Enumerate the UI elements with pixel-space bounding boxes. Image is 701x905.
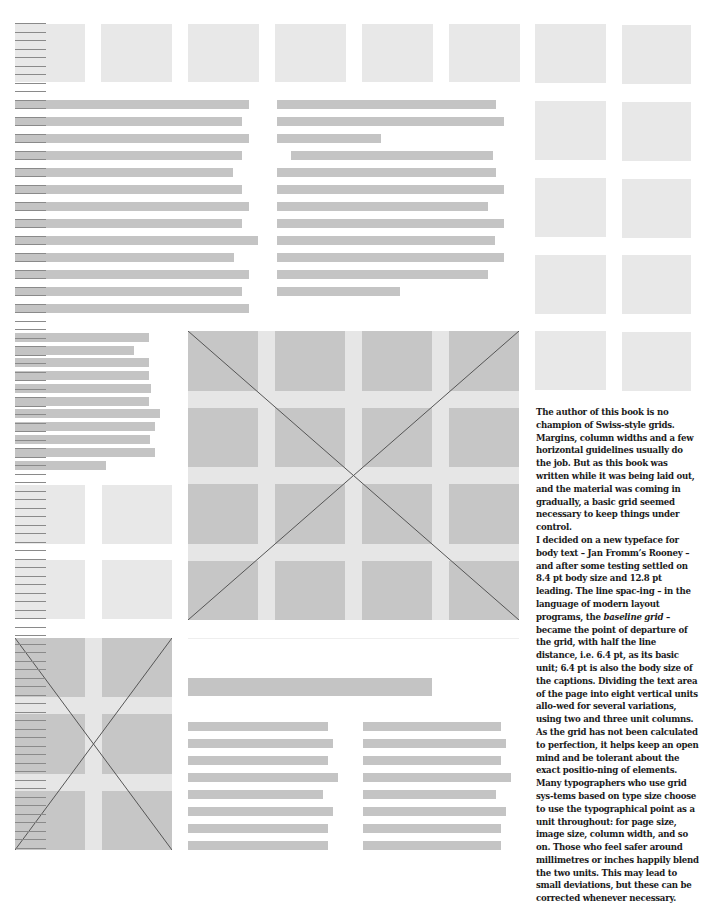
baseline-rule [15, 610, 46, 611]
baseline-rule [15, 202, 46, 203]
text-line-bar [363, 807, 506, 816]
baseline-rule [15, 176, 46, 177]
baseline-rule [15, 159, 46, 160]
placeholder-square [101, 24, 172, 82]
baseline-rule [15, 287, 46, 288]
baseline-rule [15, 695, 46, 696]
text-line-bar [15, 151, 242, 160]
baseline-rule [15, 686, 46, 687]
baseline-rule [15, 814, 46, 815]
baseline-rule [15, 117, 46, 118]
placeholder-square [102, 485, 172, 544]
baseline-rule [15, 431, 46, 432]
baseline-rule [15, 278, 46, 279]
baseline-rule [15, 448, 46, 449]
baseline-rule [15, 746, 46, 747]
text-line-bar [277, 270, 488, 279]
caption-text: Many typographers who use grid sys-tems … [536, 778, 699, 903]
baseline-rule [15, 363, 46, 364]
baseline-rule [15, 312, 46, 313]
baseline-rule [15, 321, 46, 322]
text-line-bar [15, 168, 233, 177]
baseline-rule [15, 831, 46, 832]
text-line-bar [15, 236, 258, 245]
baseline-rule [15, 219, 46, 220]
baseline-rule [15, 754, 46, 755]
placeholder-square [275, 24, 346, 82]
baseline-rule [15, 372, 46, 373]
placeholder-square [622, 179, 691, 238]
baseline-rule [15, 295, 46, 296]
text-line-bar [277, 287, 400, 296]
text-line-bar [15, 117, 242, 126]
text-line-bar [277, 117, 504, 126]
text-line-bar [363, 790, 496, 799]
baseline-rule [15, 74, 46, 75]
baseline-rule [15, 168, 46, 169]
baseline-rule [15, 66, 46, 67]
baseline-rule [15, 822, 46, 823]
baseline-rule [15, 134, 46, 135]
baseline-rule [15, 576, 46, 577]
baseline-rule [15, 644, 46, 645]
text-line-bar [188, 739, 333, 748]
text-line-bar [363, 841, 501, 850]
baseline-rule [15, 304, 46, 305]
text-line-bar [277, 202, 488, 211]
baseline-rule [15, 329, 46, 330]
placeholder-square [535, 255, 606, 314]
large-image-placeholder [188, 331, 519, 620]
baseline-rule [15, 788, 46, 789]
baseline-rule [15, 125, 46, 126]
text-line-bar [277, 100, 496, 109]
baseline-rule [15, 380, 46, 381]
baseline-rule [15, 244, 46, 245]
text-line-bar [277, 236, 495, 245]
baseline-rule [15, 601, 46, 602]
placeholder-square [535, 331, 606, 390]
placeholder-square [449, 24, 520, 82]
text-line-bar [188, 773, 338, 782]
baseline-rule [15, 474, 46, 475]
baseline-rule [15, 763, 46, 764]
text-line-bar [277, 219, 504, 228]
text-line-bar [188, 790, 323, 799]
placeholder-square [188, 24, 259, 82]
baseline-rule [15, 525, 46, 526]
text-line-bar [15, 448, 155, 457]
caption-paragraph: The author of this book is no champion o… [536, 406, 700, 534]
baseline-rule [15, 797, 46, 798]
baseline-rule [15, 236, 46, 237]
baseline-rule [15, 465, 46, 466]
baseline-rule [15, 83, 46, 84]
caption-paragraph: Many typographers who use grid sys-tems … [536, 777, 700, 905]
text-line-bar [15, 346, 134, 355]
baseline-rule [15, 397, 46, 398]
baseline-rule [15, 499, 46, 500]
baseline-rule [15, 423, 46, 424]
baseline-rule [15, 780, 46, 781]
baseline-rule [15, 533, 46, 534]
baseline-rule [15, 32, 46, 33]
text-line-bar [363, 739, 506, 748]
baseline-rule [15, 567, 46, 568]
baseline-rule [15, 142, 46, 143]
baseline-rule [15, 406, 46, 407]
text-line-bar [15, 287, 242, 296]
baseline-rule [15, 23, 46, 24]
baseline-rule [15, 491, 46, 492]
baseline-rule [15, 57, 46, 58]
text-line-bar [188, 756, 328, 765]
text-line-bar [15, 219, 242, 228]
baseline-rule [15, 40, 46, 41]
baseline-rule [15, 635, 46, 636]
text-line-bar [277, 253, 504, 262]
baseline-rule [15, 729, 46, 730]
baseline-rule [15, 261, 46, 262]
baseline-rule [15, 584, 46, 585]
baseline-rule [15, 712, 46, 713]
text-line-bar [277, 168, 496, 177]
text-line-bar [15, 304, 249, 313]
baseline-rule [15, 193, 46, 194]
baseline-rule [15, 661, 46, 662]
